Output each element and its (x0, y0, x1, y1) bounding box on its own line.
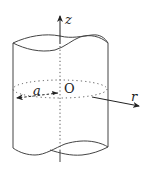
radius-arrow-tail-head (52, 91, 58, 95)
cylinder-diagram: z O a r (0, 0, 148, 172)
r-axis-label: r (131, 89, 138, 104)
radius-label: a (33, 83, 41, 98)
z-axis-label: z (64, 12, 72, 27)
origin-label: O (64, 81, 75, 96)
